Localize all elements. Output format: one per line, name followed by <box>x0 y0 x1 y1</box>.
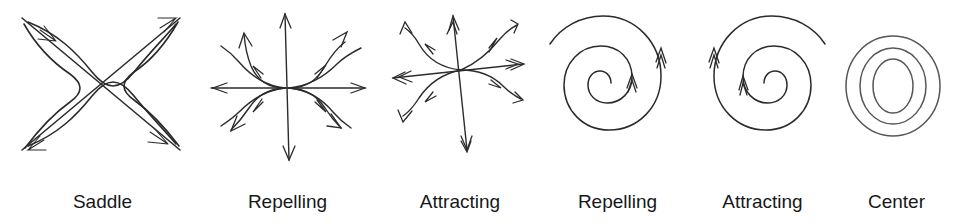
attracting-node-phase-portrait-icon <box>375 0 545 165</box>
repelling-focus-phase-portrait-icon <box>545 0 690 165</box>
panel-repelling-focus-label-line-1: Repelling <box>545 190 690 213</box>
panel-attracting-focus-label: Attracting Focus <box>690 167 835 224</box>
panel-saddle-label: Saddle <box>0 167 205 224</box>
panel-center-label-line-1: Center <box>837 190 956 213</box>
panel-repelling-node-label-line-1: Repelling <box>205 190 370 213</box>
attracting-focus-phase-portrait-icon <box>690 0 835 165</box>
panel-center: Center <box>837 0 956 224</box>
phase-portrait-figure: Saddle <box>0 0 956 224</box>
panel-saddle-label-line-1: Saddle <box>0 190 205 213</box>
panel-repelling-focus-label: Repelling Focus <box>545 167 690 224</box>
saddle-phase-portrait-icon <box>0 0 205 165</box>
panel-attracting-focus-label-line-1: Attracting <box>690 190 835 213</box>
panel-center-label: Center <box>837 167 956 224</box>
panel-attracting-node: Attracting Node <box>375 0 545 224</box>
panel-repelling-focus: Repelling Focus <box>545 0 690 224</box>
panel-attracting-node-label: Attracting Node <box>375 167 545 224</box>
panel-repelling-node-label: Repelling Node <box>205 167 370 224</box>
panel-repelling-node: Repelling Node <box>205 0 370 224</box>
panel-attracting-focus: Attracting Focus <box>690 0 835 224</box>
repelling-node-phase-portrait-icon <box>205 0 370 165</box>
panel-attracting-node-label-line-1: Attracting <box>375 190 545 213</box>
center-phase-portrait-icon <box>837 0 956 165</box>
panel-saddle: Saddle <box>0 0 205 224</box>
